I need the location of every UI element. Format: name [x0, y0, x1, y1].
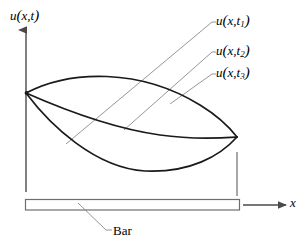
curve-u-x-t2: [26, 93, 237, 138]
curve-origin-node: [25, 91, 29, 95]
bar-rectangle: [26, 200, 240, 211]
leader-line-t1: [66, 22, 216, 144]
curve-label-t1: u(x,t1): [216, 13, 250, 29]
figure-vector-layer: [0, 0, 306, 250]
curve-label-t2-var: x: [228, 43, 234, 58]
leader-line-t3: [170, 74, 216, 104]
leader-line-t2: [124, 52, 216, 130]
curve-label-t2: u(x,t2): [216, 43, 250, 59]
figure-canvas: u(x,t) u(x,t1) u(x,t2) u(x,t3) x Bar: [0, 0, 306, 250]
curve-label-t1-var: x: [228, 13, 234, 28]
y-axis-label: u(x,t): [10, 8, 39, 23]
curve-label-t3-var: x: [228, 65, 234, 80]
curve-label-t3: u(x,t3): [216, 65, 250, 81]
y-axis-label-close-paren: ): [34, 7, 39, 23]
x-axis-label: x: [290, 196, 296, 209]
curve-u-x-t3: [26, 93, 237, 171]
bar-label: Bar: [113, 224, 132, 237]
